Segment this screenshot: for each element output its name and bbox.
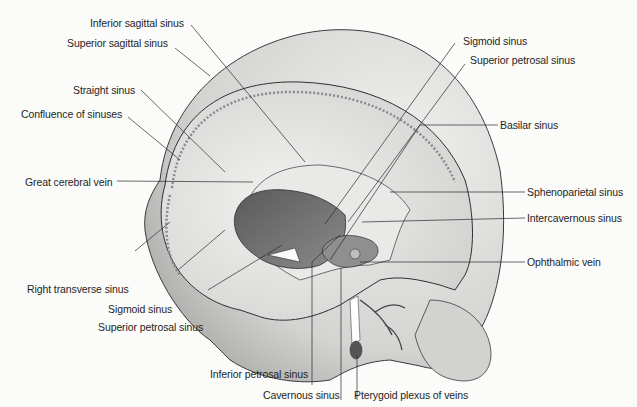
label-right-transverse-sinus: Right transverse sinus (27, 283, 129, 295)
label-pterygoid-plexus: Pterygoid plexus of veins (354, 389, 468, 401)
label-confluence-of-sinuses: Confluence of sinuses (21, 108, 122, 120)
label-ophthalmic-vein: Ophthalmic vein (527, 256, 601, 268)
label-cavernous-sinus: Cavernous sinus (263, 389, 340, 401)
label-straight-sinus: Straight sinus (73, 84, 135, 96)
label-sphenoparietal-sinus: Sphenoparietal sinus (527, 186, 623, 198)
label-great-cerebral-vein: Great cerebral vein (25, 176, 112, 188)
label-inferior-petrosal-sinus: Inferior petrosal sinus (210, 368, 308, 380)
label-inferior-sagittal-sinus: Inferior sagittal sinus (90, 17, 184, 29)
label-sigmoid-sinus-right: Sigmoid sinus (463, 35, 527, 47)
label-intercavernous-sinus: Intercavernous sinus (527, 212, 622, 224)
label-sigmoid-sinus-left: Sigmoid sinus (108, 303, 172, 315)
label-superior-petrosal-sinus-left: Superior petrosal sinus (98, 321, 203, 333)
label-superior-sagittal-sinus: Superior sagittal sinus (67, 37, 168, 49)
label-superior-petrosal-sinus-right: Superior petrosal sinus (470, 54, 575, 66)
label-basilar-sinus: Basilar sinus (500, 119, 558, 131)
